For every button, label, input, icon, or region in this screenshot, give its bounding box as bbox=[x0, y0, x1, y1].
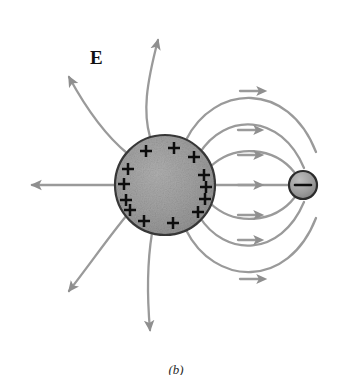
field-diagram-canvas bbox=[0, 0, 352, 375]
field-line-lower-left-outward bbox=[69, 215, 127, 291]
figure-caption: (b) bbox=[0, 362, 352, 375]
field-line-upper-right-outward bbox=[146, 40, 158, 137]
field-line-upper-left-outward bbox=[69, 77, 128, 154]
field-line-lower-right-outward bbox=[148, 233, 152, 330]
electric-field-figure: E (b) bbox=[0, 0, 352, 375]
field-label-E: E bbox=[90, 48, 103, 67]
negative-charge-group bbox=[289, 171, 317, 199]
